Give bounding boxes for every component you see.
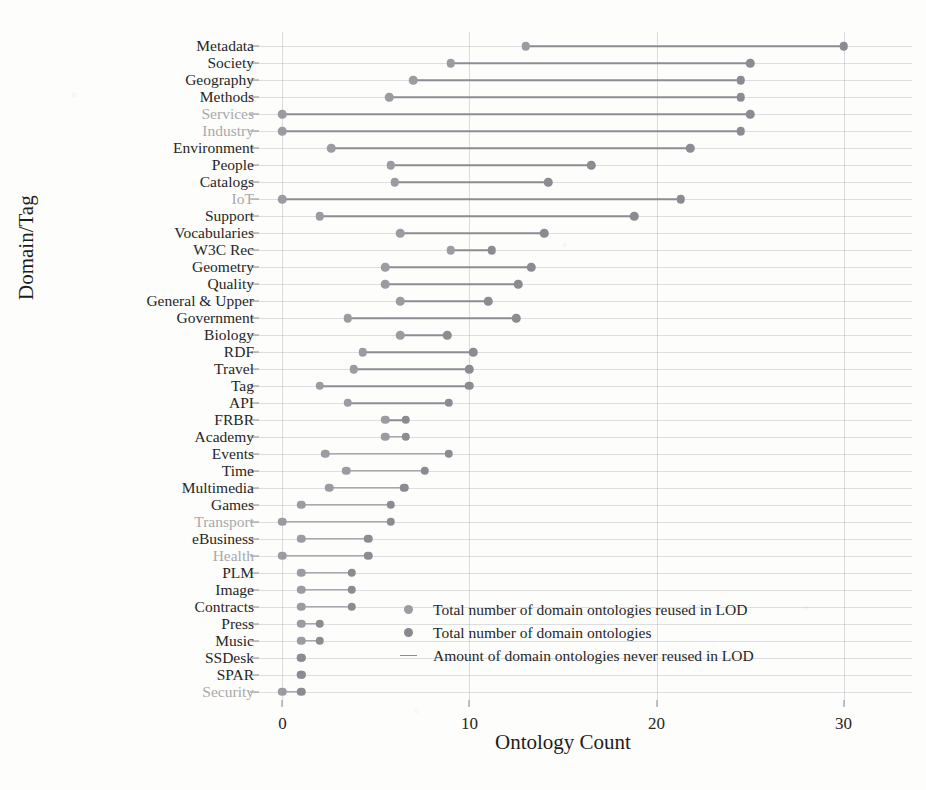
reused-count-dot	[321, 450, 330, 459]
total-count-dot	[484, 297, 493, 306]
gridline	[252, 437, 912, 438]
never-reused-segment	[320, 215, 634, 217]
reused-count-dot	[297, 534, 306, 543]
never-reused-segment	[363, 351, 473, 353]
reused-count-dot	[381, 433, 390, 442]
total-count-dot	[736, 93, 745, 102]
total-count-dot	[839, 42, 848, 51]
legend-label-reused: Total number of domain ontologies reused…	[423, 601, 747, 619]
total-count-dot	[297, 670, 306, 679]
never-reused-segment	[400, 232, 544, 234]
y-axis-tick-label: SSDesk	[205, 650, 254, 666]
never-reused-segment	[389, 97, 741, 99]
y-axis-tick-label: Health	[213, 548, 254, 564]
never-reused-segment	[391, 165, 591, 167]
legend-item-reused: Total number of domain ontologies reused…	[393, 598, 754, 621]
total-count-dot	[445, 450, 454, 459]
total-count-dot	[316, 619, 325, 628]
y-axis-tick-label: Support	[205, 208, 254, 224]
never-reused-segment	[354, 368, 470, 370]
total-count-dot	[677, 195, 686, 204]
y-axis-tick-label: API	[229, 395, 254, 411]
total-count-dot	[402, 433, 411, 442]
chart-legend: Total number of domain ontologies reused…	[393, 598, 754, 667]
gridline	[252, 233, 912, 234]
total-count-dot	[347, 602, 356, 611]
y-axis-tick-label: Music	[215, 633, 254, 649]
legend-dot-reused-icon	[393, 605, 423, 614]
y-axis-tick-label: PLM	[222, 565, 254, 581]
gridline	[252, 182, 912, 183]
total-count-dot	[364, 551, 373, 560]
gridline	[252, 284, 912, 285]
legend-line-never-reused-icon	[393, 655, 423, 657]
reused-count-dot	[396, 331, 405, 340]
y-axis-tick-label: Metadata	[196, 39, 254, 55]
total-count-dot	[514, 280, 523, 289]
never-reused-segment	[385, 283, 518, 285]
total-count-dot	[364, 534, 373, 543]
y-axis-tick-label: W3C Rec	[193, 242, 254, 258]
legend-label-total: Total number of domain ontologies	[423, 624, 651, 642]
y-axis-tick-label: SPAR	[217, 667, 254, 683]
total-count-dot	[544, 178, 553, 187]
total-count-dot	[746, 110, 755, 119]
reused-count-dot	[385, 93, 394, 102]
reused-count-dot	[359, 348, 368, 357]
reused-count-dot	[297, 636, 306, 645]
y-axis-tick-label: Vocabularies	[174, 225, 254, 241]
y-axis-tick-label: Services	[201, 107, 254, 123]
reused-count-dot	[390, 178, 399, 187]
never-reused-segment	[282, 521, 390, 523]
total-count-dot	[347, 585, 356, 594]
total-count-dot	[400, 484, 409, 493]
reused-count-dot	[396, 229, 405, 238]
never-reused-segment	[329, 487, 404, 489]
gridline	[252, 692, 912, 693]
y-axis-tick-label: Geometry	[192, 259, 254, 275]
reused-count-dot	[278, 687, 287, 696]
reused-count-dot	[381, 263, 390, 272]
reused-count-dot	[396, 297, 405, 306]
y-axis-tick-label: Environment	[173, 141, 254, 157]
reused-count-dot	[278, 518, 287, 527]
y-axis-tick-label: Press	[221, 616, 254, 632]
y-axis-tick-label: Tag	[231, 378, 254, 394]
y-axis-tick-label: Academy	[195, 429, 254, 445]
never-reused-segment	[301, 572, 352, 574]
never-reused-segment	[400, 300, 488, 302]
never-reused-segment	[301, 589, 352, 591]
reused-count-dot	[316, 212, 325, 221]
total-count-dot	[347, 568, 356, 577]
total-count-dot	[512, 314, 521, 323]
gridline	[844, 32, 845, 706]
y-axis-tick-label: Catalogs	[200, 175, 254, 191]
reused-count-dot	[297, 501, 306, 510]
y-axis-tick-label: Society	[208, 56, 255, 72]
reused-count-dot	[297, 568, 306, 577]
reused-count-dot	[316, 382, 325, 391]
y-axis-tick-label: Biology	[204, 327, 254, 343]
never-reused-segment	[451, 249, 492, 251]
y-axis-tick-label: People	[212, 158, 254, 174]
total-count-dot	[445, 399, 454, 408]
x-axis-title: Ontology Count	[260, 730, 866, 755]
y-axis-tick-label: RDF	[224, 344, 254, 360]
reused-count-dot	[327, 144, 336, 153]
never-reused-segment	[385, 266, 531, 268]
y-axis-tick-label: Games	[211, 497, 254, 513]
reused-count-dot	[278, 127, 287, 136]
y-axis-tick-label: Multimedia	[182, 480, 254, 496]
y-axis-tick-label: IoT	[232, 192, 254, 208]
never-reused-segment	[282, 198, 680, 200]
y-axis-title: Domain/Tag	[14, 195, 39, 300]
total-count-dot	[316, 636, 325, 645]
y-axis-tick-label: Transport	[194, 514, 254, 530]
y-axis-tick-label: Geography	[185, 73, 254, 89]
reused-count-dot	[409, 76, 418, 85]
never-reused-segment	[346, 470, 425, 472]
never-reused-segment	[301, 504, 391, 506]
reused-count-dot	[521, 42, 530, 51]
never-reused-segment	[282, 555, 368, 557]
y-axis-tick-label: Methods	[200, 90, 254, 106]
